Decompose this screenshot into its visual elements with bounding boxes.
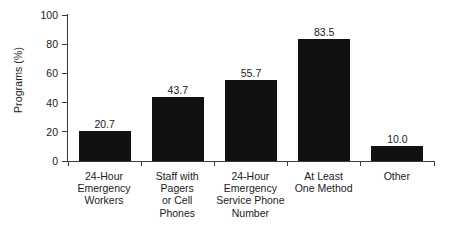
x-tick-2	[214, 161, 215, 166]
y-tick-20	[62, 131, 67, 132]
cat-line: 24-Hour	[68, 170, 141, 182]
y-tick-100	[62, 15, 67, 16]
x-tick-5	[434, 161, 435, 166]
cat-line: Phones	[141, 207, 214, 219]
cat-line: One Method	[287, 182, 360, 194]
bar-24-hour-emergency-workers	[79, 131, 131, 161]
bar-at-least-one-method	[298, 39, 350, 161]
bar-chart: Programs (%) 100 80 60 40 20 0 20.7 43.7…	[0, 0, 459, 227]
cat-line: Emergency	[68, 182, 141, 194]
cat-line: Pagers	[141, 182, 214, 194]
bar-other	[371, 146, 423, 161]
y-tick-60	[62, 73, 67, 74]
x-category-label-staff-with-pagers-or-cell-phones: Staff with Pagers or Cell Phones	[141, 170, 214, 219]
bar-value-staff-with-pagers-or-cell-phones: 43.7	[148, 85, 208, 96]
bar-24-hour-emergency-service-phone-number	[225, 80, 277, 161]
y-tick-40	[62, 102, 67, 103]
y-tick-0	[62, 161, 67, 162]
y-tick-label-40: 40	[32, 98, 58, 109]
bar-value-24-hour-emergency-workers: 20.7	[75, 119, 135, 130]
bar-value-other: 10.0	[367, 134, 427, 145]
x-tick-4	[360, 161, 361, 166]
cat-line: Workers	[68, 194, 141, 206]
x-tick-0	[68, 161, 69, 166]
cat-line: Emergency	[214, 182, 287, 194]
cat-line: 24-Hour	[214, 170, 287, 182]
bar-value-24-hour-emergency-service-phone-number: 55.7	[221, 68, 281, 79]
bar-value-at-least-one-method: 83.5	[294, 27, 354, 38]
x-tick-1	[141, 161, 142, 166]
cat-line: Other	[360, 170, 433, 182]
x-category-label-24-hour-emergency-service-phone-number: 24-Hour Emergency Service Phone Number	[214, 170, 287, 219]
y-tick-label-80: 80	[32, 39, 58, 50]
x-category-label-other: Other	[360, 170, 433, 182]
y-tick-label-20: 20	[32, 127, 58, 138]
y-tick-label-0: 0	[32, 156, 58, 167]
cat-line: Number	[214, 207, 287, 219]
cat-line: Staff with	[141, 170, 214, 182]
cat-line: or Cell	[141, 194, 214, 206]
x-category-label-24-hour-emergency-workers: 24-Hour Emergency Workers	[68, 170, 141, 207]
y-tick-label-60: 60	[32, 68, 58, 79]
x-category-label-at-least-one-method: At Least One Method	[287, 170, 360, 194]
x-tick-3	[287, 161, 288, 166]
cat-line: Service Phone	[214, 194, 287, 206]
y-tick-label-100: 100	[32, 10, 58, 21]
bar-staff-with-pagers-or-cell-phones	[152, 97, 204, 161]
cat-line: At Least	[287, 170, 360, 182]
y-tick-80	[62, 44, 67, 45]
